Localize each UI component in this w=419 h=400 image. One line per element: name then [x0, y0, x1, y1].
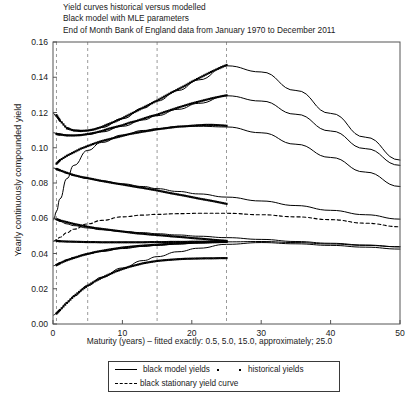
x-axis-label: Maturity (years) – fitted exactly: 0.5, … — [0, 336, 419, 346]
gridlines — [56, 42, 226, 324]
legend-row-1: black model yields historical yields — [109, 363, 339, 377]
marker-series-1 — [55, 64, 227, 132]
marker-series-14 — [55, 257, 227, 314]
marker-series-12 — [55, 241, 227, 266]
legend-label-stationary: black stationary yield curve — [140, 377, 238, 391]
marker-series-9 — [55, 218, 227, 242]
chart-figure: Yield curves historical versus modelled … — [0, 0, 419, 400]
y-tick-label: 0.16 — [31, 37, 48, 47]
y-tick-label: 0.06 — [31, 213, 48, 223]
y-tick-label: 0.12 — [31, 108, 48, 118]
dashed-line-swatch-icon — [115, 383, 137, 384]
legend-label-model: black model yields — [143, 363, 210, 377]
y-tick-label: 0.10 — [31, 143, 48, 153]
y-tick-label: 0.14 — [31, 72, 48, 82]
dot-swatch-icon-a — [217, 369, 219, 371]
y-tick-label: 0.00 — [31, 319, 48, 329]
y-tick-label: 0.08 — [31, 178, 48, 188]
solid-line-swatch-icon — [115, 369, 137, 370]
legend-row-2: black stationary yield curve — [109, 377, 339, 391]
y-tick-label: 0.04 — [31, 249, 48, 259]
y-tick-label: 0.02 — [31, 284, 48, 294]
y-axis-label: Yearly continuously compounded yield — [13, 70, 23, 290]
legend-label-historical: historical yields — [248, 363, 304, 377]
legend: black model yields historical yields bla… — [108, 361, 340, 392]
dot-swatch-icon-b — [239, 369, 241, 371]
